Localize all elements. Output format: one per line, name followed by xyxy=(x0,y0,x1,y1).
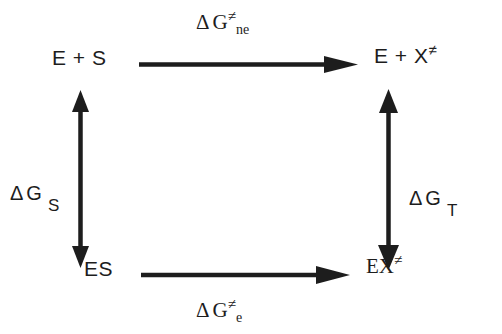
node-label-ex-base: EX xyxy=(366,254,394,278)
subscript-e: e xyxy=(236,310,242,325)
node-label-es: ES xyxy=(84,258,113,279)
g-symbol-s: G xyxy=(26,182,42,204)
node-label-e-plus-x-base: E + X xyxy=(374,44,428,67)
arrow-left-head-up xyxy=(72,90,89,112)
edge-label-delta-g-t: ΔGT xyxy=(409,188,451,208)
arrow-bottom-enzymatic xyxy=(141,266,350,284)
not-equal-superscript-ne: ≠ xyxy=(228,8,236,24)
subscript-s: S xyxy=(48,196,59,215)
node-label-e-plus-x: E + X≠ xyxy=(374,45,437,66)
arrow-right-transition-state-binding xyxy=(378,89,399,270)
edge-label-delta-g-ne: ΔG≠ne xyxy=(196,12,249,33)
delta-symbol-t: Δ xyxy=(409,187,422,209)
edge-label-delta-g-e: ΔG≠e xyxy=(196,300,242,321)
g-symbol-e: G xyxy=(213,298,228,322)
subscript-t: T xyxy=(447,201,457,220)
delta-symbol-s: Δ xyxy=(10,182,23,204)
edge-label-delta-g-s: ΔGS xyxy=(10,183,53,203)
arrow-bottom-head xyxy=(316,266,350,284)
arrow-left-substrate-binding xyxy=(72,90,89,268)
arrow-right-head-up xyxy=(379,89,398,113)
delta-symbol-e: Δ xyxy=(196,298,210,322)
thermodynamic-cycle-diagram: E + S E + X≠ ES EX≠ ΔG≠ne ΔG≠e ΔGS ΔGT xyxy=(0,0,502,334)
node-label-ex-superscript: ≠ xyxy=(394,252,402,268)
delta-symbol-ne: Δ xyxy=(196,10,210,34)
g-symbol-ne: G xyxy=(213,10,228,34)
arrow-top-nonenzymatic xyxy=(139,56,358,73)
subscript-ne: ne xyxy=(236,22,249,37)
node-label-e-plus-s: E + S xyxy=(52,47,106,68)
arrow-top-head xyxy=(324,56,358,73)
g-symbol-t: G xyxy=(425,187,441,209)
node-label-es-base: ES xyxy=(84,257,113,280)
node-label-e-plus-s-base: E + S xyxy=(52,46,106,69)
node-label-e-plus-x-superscript: ≠ xyxy=(428,41,436,58)
node-label-ex: EX≠ xyxy=(366,256,402,277)
not-equal-superscript-e: ≠ xyxy=(228,296,236,312)
